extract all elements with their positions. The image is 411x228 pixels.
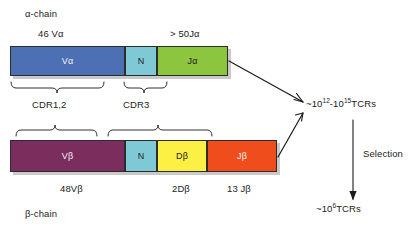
arrow-beta-to-diversity: [278, 113, 303, 157]
segment-j-alpha: Jα: [157, 46, 228, 76]
total-diversity-prefix: ~10: [306, 98, 322, 109]
beta-d-count-label: 2Dβ: [172, 183, 190, 194]
arrow-alpha-head: [294, 94, 303, 103]
selected-repertoire-prefix: ~10: [316, 203, 332, 214]
segment-n-beta: N: [125, 140, 157, 172]
segment-v-beta: Vβ: [10, 140, 125, 172]
cdr12-label: CDR1,2: [32, 99, 66, 110]
arrow-alpha-to-diversity: [229, 61, 303, 102]
bracket-cdr3-top: [124, 82, 167, 93]
segment-n-beta-label: N: [138, 151, 145, 161]
total-diversity-label: ~1012-1015TCRs: [306, 98, 376, 109]
alpha-v-count-label: 46 Vα: [38, 28, 64, 39]
segment-v-alpha: Vα: [10, 46, 125, 76]
segment-j-beta-label: Jβ: [237, 151, 247, 161]
segment-v-beta-label: Vβ: [62, 151, 74, 161]
segment-n-alpha: N: [125, 46, 157, 76]
bracket-cdr12-top: [11, 82, 104, 93]
bracket-cdr3-bottom: [108, 125, 212, 136]
arrow-selection-head: [349, 191, 356, 201]
beta-chain-label: β-chain: [25, 208, 57, 219]
selected-repertoire-suffix: TCRs: [336, 203, 361, 214]
bracket-cdr12-bottom: [16, 125, 97, 136]
selection-label: Selection: [363, 148, 403, 159]
segment-j-alpha-label: Jα: [187, 56, 197, 66]
segment-j-beta: Jβ: [207, 140, 277, 172]
total-diversity-mid: -10: [330, 98, 344, 109]
segment-d-beta: Dβ: [157, 140, 207, 172]
selected-repertoire-label: ~106TCRs: [316, 203, 361, 214]
total-diversity-exponent-low: 12: [322, 97, 329, 104]
segment-v-alpha-label: Vα: [62, 56, 74, 66]
total-diversity-suffix: TCRs: [351, 98, 376, 109]
cdr3-label: CDR3: [123, 99, 149, 110]
beta-v-count-label: 48Vβ: [60, 183, 83, 194]
alpha-chain-label: α-chain: [25, 8, 57, 19]
segment-d-beta-label: Dβ: [176, 151, 188, 161]
alpha-j-count-label: > 50Jα: [170, 28, 200, 39]
tcr-diversity-diagram: α-chain 46 Vα > 50Jα Vα N Jα CDR1,2 CDR3…: [0, 0, 411, 228]
arrow-beta-head: [296, 113, 304, 121]
beta-j-count-label: 13 Jβ: [227, 183, 251, 194]
segment-n-alpha-label: N: [138, 56, 145, 66]
